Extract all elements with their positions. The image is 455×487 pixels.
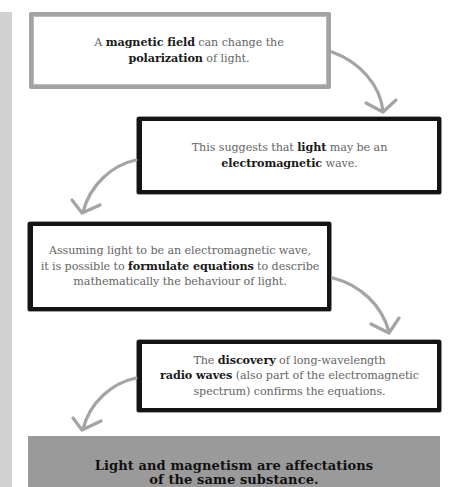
step-line: radio waves (also part of the electromag…: [160, 368, 419, 384]
step-line: mathematically the behaviour of light.: [41, 274, 320, 290]
step-line: spectrum) confirms the equations.: [160, 384, 419, 400]
side-strip: [0, 12, 12, 487]
text-run: This suggests that: [192, 141, 298, 154]
step-line: polarization of light.: [94, 51, 283, 67]
step-line: A magnetic field can change the: [94, 35, 283, 51]
text-run: it is possible to: [41, 260, 128, 273]
bold-run: magnetic field: [106, 35, 195, 49]
text-run: spectrum) confirms the equations.: [193, 385, 385, 398]
step-box-formulate-equations: Assuming light to be an electromagnetic …: [28, 222, 331, 311]
conclusion-banner: Light and magnetism are affectations of …: [28, 436, 440, 487]
bold-run: radio waves: [160, 368, 232, 382]
step-box-radio-waves: The discovery of long-wavelength radio w…: [137, 340, 441, 412]
text-run: to describe: [254, 260, 320, 273]
step-text: This suggests that light may be an elect…: [192, 140, 388, 171]
text-run: can change the: [195, 36, 284, 49]
bold-run: light: [297, 140, 326, 154]
step-text: A magnetic field can change the polariza…: [76, 35, 283, 66]
step-text: The discovery of long-wavelength radio w…: [160, 353, 419, 400]
bold-run: polarization: [129, 51, 203, 65]
step-box-magnetic-field: A magnetic field can change the polariza…: [29, 12, 331, 89]
curved-arrow-down-left-icon: [73, 378, 136, 430]
bold-run: electromagnetic: [221, 156, 322, 170]
step-line: it is possible to formulate equations to…: [41, 259, 320, 275]
curved-arrow-down-left-icon: [72, 160, 136, 213]
step-line: Assuming light to be an electromagnetic …: [41, 243, 320, 259]
step-line: This suggests that light may be an: [192, 140, 388, 156]
conclusion-line-1: Light and magnetism are affectations: [28, 459, 440, 473]
text-run: may be an: [326, 141, 387, 154]
step-box-light-electromagnetic: This suggests that light may be an elect…: [137, 117, 441, 194]
bold-run: formulate equations: [128, 259, 254, 273]
text-run: of long-wavelength: [276, 354, 386, 367]
text-run: Assuming light to be an electromagnetic …: [49, 244, 311, 257]
step-line: The discovery of long-wavelength: [160, 353, 419, 369]
text-run: A: [94, 36, 105, 49]
curved-arrow-down-right-icon: [332, 52, 396, 112]
bold-run: discovery: [218, 353, 276, 367]
text-run: (also part of the electromagnetic: [232, 369, 419, 382]
conclusion-line-2: of the same substance.: [28, 473, 440, 487]
text-run: mathematically the behaviour of light.: [73, 275, 286, 288]
text-run: of light.: [203, 52, 250, 65]
text-run: wave.: [322, 157, 358, 170]
step-line: electromagnetic wave.: [192, 156, 388, 172]
text-run: The: [193, 354, 217, 367]
step-text: Assuming light to be an electromagnetic …: [41, 243, 320, 290]
curved-arrow-down-right-icon: [333, 278, 399, 333]
